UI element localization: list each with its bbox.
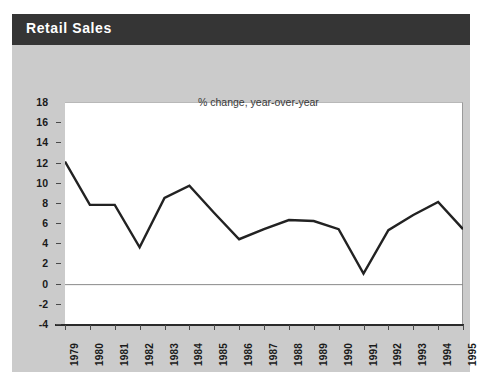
y-axis-tick-label: -2 — [18, 299, 48, 309]
y-axis-tick — [56, 243, 61, 244]
x-axis-tick-label: 1980 — [94, 343, 105, 366]
y-axis-tick — [56, 284, 61, 285]
x-axis-tick — [239, 325, 240, 330]
x-axis-tick-label: 1979 — [69, 343, 80, 366]
y-axis-tick-label: 6 — [18, 218, 48, 228]
y-axis-tick-label: 4 — [18, 238, 48, 248]
y-axis-tick — [56, 304, 61, 305]
x-axis-tick-label: 1991 — [368, 343, 379, 366]
y-axis-tick — [56, 223, 61, 224]
y-axis-tick — [56, 163, 61, 164]
y-axis-tick-label: 14 — [18, 137, 48, 147]
x-axis-tick-label: 1995 — [467, 343, 478, 366]
x-axis-tick — [339, 325, 340, 330]
chart-card: Retail Sales % change, year-over-year 18… — [12, 14, 470, 372]
x-axis-tick-label: 1982 — [144, 343, 155, 366]
y-axis-tick-label: 12 — [18, 158, 48, 168]
screenshot-root: Retail Sales % change, year-over-year 18… — [0, 0, 484, 390]
chart-body: % change, year-over-year 181614121086420… — [12, 45, 470, 372]
y-axis-tick-label: -4 — [18, 319, 48, 329]
x-axis-tick — [214, 325, 215, 330]
y-axis-tick — [56, 122, 61, 123]
y-axis-tick — [56, 324, 61, 325]
x-axis-tick — [115, 325, 116, 330]
x-axis-tick — [165, 325, 166, 330]
y-axis-tick-label: 16 — [18, 117, 48, 127]
x-axis-tick-label: 1992 — [392, 343, 403, 366]
data-series-line — [65, 162, 463, 274]
x-axis-tick-label: 1993 — [417, 343, 428, 366]
x-axis-tick-label: 1987 — [268, 343, 279, 366]
x-axis-tick — [364, 325, 365, 330]
y-axis-tick — [56, 183, 61, 184]
page-title: Retail Sales — [26, 20, 112, 36]
y-axis-tick-label: 10 — [18, 178, 48, 188]
x-axis-tick-label: 1988 — [293, 343, 304, 366]
x-axis-tick — [314, 325, 315, 330]
x-axis-tick-label: 1986 — [243, 343, 254, 366]
x-axis-tick — [463, 325, 464, 330]
x-axis-tick-label: 1994 — [442, 343, 453, 366]
x-axis-tick — [140, 325, 141, 330]
y-axis-tick — [56, 203, 61, 204]
x-axis-tick — [65, 325, 66, 330]
x-axis-tick-label: 1990 — [343, 343, 354, 366]
y-axis-tick — [56, 142, 61, 143]
y-axis-tick-label: 0 — [18, 279, 48, 289]
x-axis-tick — [264, 325, 265, 330]
x-axis-tick — [438, 325, 439, 330]
y-axis-tick — [56, 263, 61, 264]
y-axis-tick-label: 18 — [18, 97, 48, 107]
x-axis-tick — [413, 325, 414, 330]
x-axis-tick — [289, 325, 290, 330]
y-axis-tick-label: 8 — [18, 198, 48, 208]
x-axis-tick-label: 1983 — [169, 343, 180, 366]
x-axis-tick — [189, 325, 190, 330]
chart-annotation: % change, year-over-year — [198, 96, 319, 108]
plot-area — [65, 102, 463, 324]
y-axis-tick-label: 2 — [18, 258, 48, 268]
x-axis-tick — [90, 325, 91, 330]
x-axis-tick — [388, 325, 389, 330]
x-axis-tick-label: 1984 — [193, 343, 204, 366]
x-axis-tick-label: 1981 — [119, 343, 130, 366]
title-bar: Retail Sales — [12, 14, 470, 45]
chart-line-svg — [65, 103, 463, 325]
x-axis-tick-label: 1989 — [318, 343, 329, 366]
x-axis-tick-label: 1985 — [218, 343, 229, 366]
